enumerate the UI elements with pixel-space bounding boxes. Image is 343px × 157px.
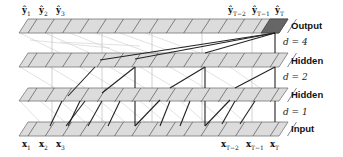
dilation-4-label: d = 4 — [283, 38, 308, 47]
x3-label: x3 — [56, 140, 65, 151]
x1-label: x1 — [22, 140, 31, 151]
faint-connections — [20, 33, 260, 122]
y1-label: ŷ1 — [22, 6, 31, 17]
xT-1-label: xT−1 — [246, 140, 264, 151]
hidden-upper-layer-label: Hidden — [291, 56, 323, 66]
xT-label: xT — [270, 140, 279, 151]
active-connections — [50, 33, 275, 126]
y3-label: ŷ3 — [56, 6, 65, 17]
dilation-2-label: d = 2 — [283, 73, 308, 82]
hidden-lower-layer-label: Hidden — [291, 90, 323, 100]
input-layer-label: Input — [291, 124, 314, 134]
x2-label: x2 — [39, 140, 48, 151]
dilation-1-label: d = 1 — [283, 108, 308, 117]
y2-label: ŷ2 — [39, 6, 48, 17]
yT-1-label: ŷT−1 — [252, 6, 270, 17]
output-layer-label: Output — [291, 21, 322, 31]
layer-bands — [19, 19, 288, 136]
xT-2-label: xT−2 — [221, 140, 239, 151]
yT-2-label: ŷT−2 — [228, 6, 246, 17]
hidden-lower-band — [19, 88, 288, 101]
yT-label: ŷT — [275, 6, 284, 17]
